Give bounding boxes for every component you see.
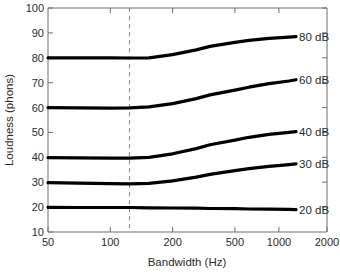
curve-60db	[48, 80, 296, 108]
curve-20db	[48, 207, 296, 209]
y-tick-label-100: 100	[26, 2, 44, 14]
x-axis-tick-labels: 50 100 200 500 1000 2000	[42, 236, 339, 248]
y-tick-label-30: 30	[32, 176, 44, 188]
y-axis-ticks	[48, 8, 327, 232]
y-tick-label-80: 80	[32, 52, 44, 64]
data-series-group	[48, 37, 296, 210]
y-tick-label-70: 70	[32, 77, 44, 89]
x-tick-label-200: 200	[163, 236, 181, 248]
curve-30db	[48, 164, 296, 184]
chart-canvas: 100 90 80 70 60 50 40 30 20 10 50 100 20…	[0, 0, 340, 275]
y-tick-label-40: 40	[32, 151, 44, 163]
x-tick-label-50: 50	[42, 236, 54, 248]
series-label-30db: 30 dB	[299, 158, 329, 170]
y-tick-label-20: 20	[32, 201, 44, 213]
y-axis-tick-labels: 100 90 80 70 60 50 40 30 20 10	[26, 2, 44, 238]
series-end-labels: 80 dB 60 dB 40 dB 30 dB 20 dB	[299, 31, 329, 216]
series-label-40db: 40 dB	[299, 126, 329, 138]
plot-axes-frame	[48, 8, 327, 232]
y-tick-label-90: 90	[32, 27, 44, 39]
x-tick-label-100: 100	[101, 236, 119, 248]
curve-80db	[48, 37, 296, 58]
curve-40db	[48, 132, 296, 159]
series-label-80db: 80 dB	[299, 31, 329, 43]
x-tick-label-1000: 1000	[267, 236, 291, 248]
y-tick-label-60: 60	[32, 102, 44, 114]
loudness-bandwidth-chart: 100 90 80 70 60 50 40 30 20 10 50 100 20…	[0, 0, 340, 275]
y-tick-label-50: 50	[32, 126, 44, 138]
series-label-20db: 20 dB	[299, 204, 329, 216]
x-tick-label-2000: 2000	[315, 236, 339, 248]
x-tick-label-500: 500	[226, 236, 244, 248]
series-label-60db: 60 dB	[299, 74, 329, 86]
x-axis-ticks	[48, 8, 327, 232]
y-axis-title: Loudness (phons)	[3, 74, 15, 166]
x-axis-title: Bandwidth (Hz)	[148, 256, 227, 268]
axis-frame-path	[48, 8, 327, 232]
